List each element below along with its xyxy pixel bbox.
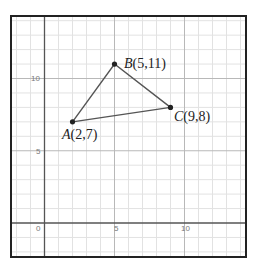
point-b-marker xyxy=(112,61,117,66)
point-label-a: A(2,7) xyxy=(61,127,98,143)
point-b-coords: (5,11) xyxy=(133,56,167,72)
point-label-b: B(5,11) xyxy=(124,56,166,72)
point-c-marker xyxy=(168,105,173,110)
point-a-marker xyxy=(70,119,75,124)
coordinate-plane: 0 5 10 5 10 A(2,7) B(5,11) C(9,8) xyxy=(0,0,256,274)
y-tick-10: 10 xyxy=(31,74,40,83)
point-c-coords: (9,8) xyxy=(183,109,210,125)
x-tick-10: 10 xyxy=(181,224,190,233)
point-a-letter: A xyxy=(61,127,71,142)
grid-minor xyxy=(11,16,246,257)
x-tick-0: 0 xyxy=(36,224,41,233)
point-a-coords: (2,7) xyxy=(71,127,98,143)
y-tick-5: 5 xyxy=(36,147,41,156)
x-tick-5: 5 xyxy=(114,224,119,233)
point-label-c: C(9,8) xyxy=(174,109,211,125)
